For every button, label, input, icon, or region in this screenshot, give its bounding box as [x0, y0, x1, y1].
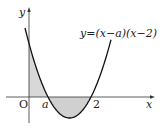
equation-label: y=(x−a)(x−2) [80, 28, 157, 39]
root-a-label: a [42, 99, 49, 110]
graph-figure: y y=(x−a)(x−2) O a 2 x [0, 0, 167, 128]
root-2-label: 2 [93, 99, 100, 110]
y-axis-label: y [19, 7, 25, 18]
x-axis-label: x [146, 99, 152, 110]
y-axis-arrow-icon [27, 7, 30, 12]
origin-label: O [19, 99, 28, 110]
